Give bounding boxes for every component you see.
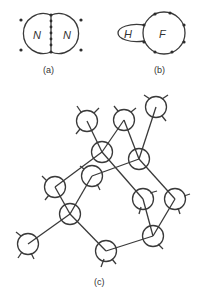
- label-n-right: N: [63, 29, 71, 41]
- diagram-a: N N (a): [19, 13, 82, 75]
- label-h: H: [124, 28, 132, 40]
- node-h: [133, 189, 158, 215]
- diagram-canvas: N N (a) H F (b): [0, 0, 201, 289]
- caption-a: (a): [43, 65, 54, 75]
- caption-b: (b): [154, 65, 165, 75]
- caption-c: (c): [94, 277, 105, 287]
- node-k: [16, 232, 39, 259]
- node-m: [143, 226, 164, 250]
- diagram-c: (c): [16, 95, 190, 287]
- label-f: F: [159, 28, 167, 40]
- diagram-b: H F (b): [118, 11, 186, 75]
- node-g: [42, 176, 66, 200]
- node-l: [96, 241, 117, 268]
- nodes: [16, 95, 190, 267]
- node-b: [114, 106, 137, 131]
- label-n-left: N: [33, 29, 41, 41]
- node-a: [76, 106, 99, 134]
